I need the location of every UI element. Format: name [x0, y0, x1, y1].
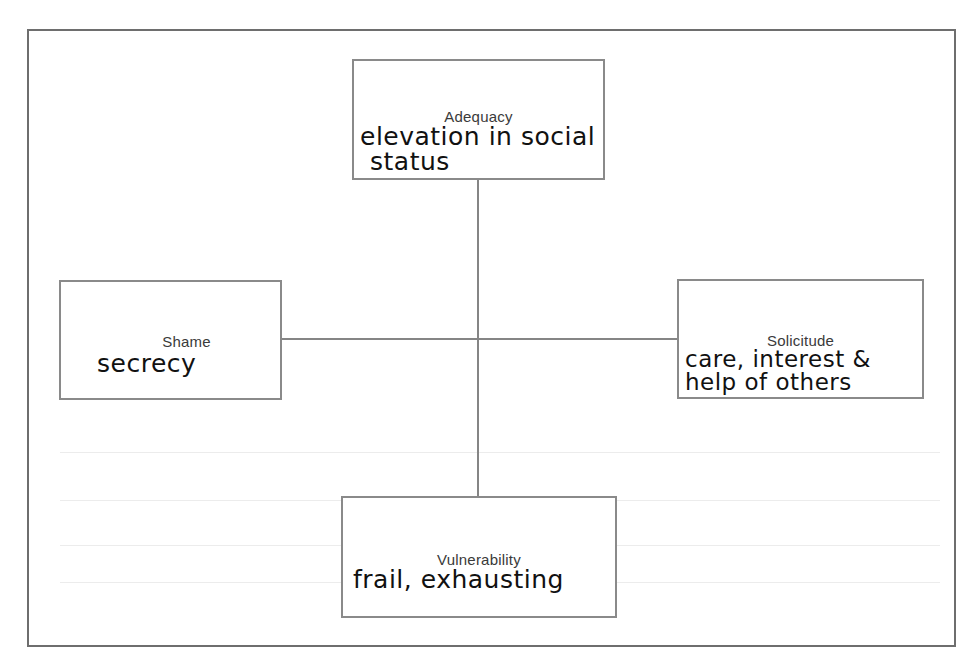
- handwritten-note-line: secrecy: [97, 352, 196, 377]
- node-vulnerability: Vulnerability frail, exhausting: [341, 496, 617, 618]
- handwritten-note-line: care, interest &: [685, 348, 871, 371]
- handwritten-note-line: status: [370, 150, 450, 175]
- handwritten-note-line: help of others: [685, 371, 852, 394]
- horizontal-connector: [281, 338, 678, 340]
- node-shame: Shame secrecy: [59, 280, 282, 400]
- handwritten-note-line: frail, exhausting: [353, 568, 564, 593]
- faint-ruled-line: [60, 452, 940, 453]
- handwritten-note-line: elevation in social: [360, 125, 595, 150]
- node-label: Shame: [77, 333, 296, 350]
- node-adequacy: Adequacy elevation in social status: [352, 59, 605, 180]
- node-solicitude: Solicitude care, interest & help of othe…: [677, 279, 924, 399]
